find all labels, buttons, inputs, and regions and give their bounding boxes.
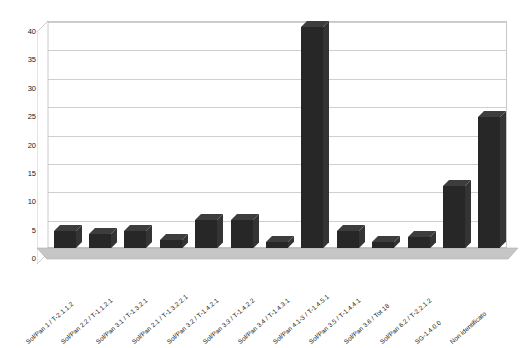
y-axis-tick-label: 10: [10, 198, 36, 206]
bar: [408, 231, 430, 248]
bar-3d-faces: [231, 214, 259, 248]
bar: [160, 234, 182, 249]
bar-3d-faces: [301, 21, 329, 248]
y-axis-tick-label: 25: [10, 113, 36, 121]
y-axis-tick-label: 5: [10, 227, 36, 235]
bar-3d-faces: [478, 111, 506, 248]
x-axis-tick-label: Non identificato: [449, 310, 488, 345]
bar: [231, 214, 253, 248]
bar: [195, 214, 217, 248]
bar-chart: 0510152025303540 Sol/Pan 1 / T-2.1.1.2So…: [0, 0, 524, 348]
bar-3d-faces: [443, 180, 471, 248]
x-axis-tick-label: SG-1.4.0.0: [413, 319, 442, 345]
bar: [443, 180, 465, 248]
bar: [266, 236, 288, 248]
y-axis-tick-label: 20: [10, 142, 36, 150]
bar: [301, 21, 323, 248]
bars-layer: [47, 21, 507, 248]
bar: [54, 225, 76, 248]
bar: [478, 111, 500, 248]
bar-3d-faces: [54, 225, 82, 248]
y-axis-tick-label: 30: [10, 85, 36, 93]
y-axis-tick-label: 35: [10, 56, 36, 64]
bar-3d-faces: [160, 234, 188, 249]
x-axis-labels: Sol/Pan 1 / T-2.1.1.2Sol/Pan 2.2 / T-1.1…: [0, 256, 524, 348]
y-axis-tick-label: 15: [10, 170, 36, 178]
bar-3d-faces: [266, 236, 294, 248]
y-axis-tick-label: 40: [10, 28, 36, 36]
bar: [89, 228, 111, 248]
bar: [124, 225, 146, 248]
bar-3d-faces: [372, 236, 400, 248]
bar-3d-faces: [408, 231, 436, 248]
bar: [372, 236, 394, 248]
bar-3d-faces: [89, 228, 117, 248]
bar: [337, 225, 359, 248]
bar-3d-faces: [124, 225, 152, 248]
bar-3d-faces: [337, 225, 365, 248]
bar-3d-faces: [195, 214, 223, 248]
